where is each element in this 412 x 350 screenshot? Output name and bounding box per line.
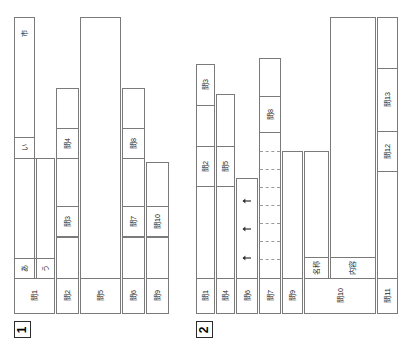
fig1-number-text: 1 <box>17 326 29 333</box>
fig1-leaf-i-box <box>14 137 35 159</box>
fig2-node-q5-box <box>216 146 235 187</box>
diagram-canvas: 問1 問2 問5 問6 問9 あ う 問3 問4 問7 問8 <box>0 0 412 350</box>
fig2-node-q11-box <box>377 278 398 314</box>
fig2-node-q2-stem <box>196 105 215 147</box>
fig2-number-badge: 2 <box>196 321 213 338</box>
fig2-leaf-naiyo-stem <box>330 17 376 258</box>
fig1-node-q5-stem <box>80 17 121 279</box>
fig2-dash-5 <box>260 223 280 224</box>
fig2-node-q10-box <box>304 278 376 314</box>
fig1-node-q1-box <box>14 278 55 314</box>
fig2-dash-2 <box>260 169 280 170</box>
fig2-leaf-meisho-box <box>304 257 329 279</box>
fig2-dash-1 <box>260 151 280 152</box>
fig1-node-q5-box <box>80 278 121 314</box>
fig2-node-q8-box <box>259 96 281 133</box>
fig2-leaf-naiyo-box <box>330 257 376 279</box>
fig2-node-q4-box <box>216 278 235 314</box>
fig1-node-q6-box <box>122 278 145 314</box>
fig2-node-q6-stem <box>236 178 258 279</box>
fig1-leaf-shi2-box <box>36 158 55 259</box>
fig1-leaf-shi1-box <box>14 158 35 259</box>
fig1-node-q9-box <box>146 278 169 314</box>
fig1-leaf-a-box <box>14 258 35 279</box>
fig1-leaf-shi3-box <box>14 17 35 138</box>
fig2-node-q2-box <box>196 146 215 187</box>
fig2-node-q11-stem <box>377 171 398 279</box>
fig1-node-q10-stem <box>146 162 169 207</box>
fig1-node-q8-stem <box>122 88 145 129</box>
fig1-node-q6-stem <box>122 237 145 279</box>
fig1-node-q4-stem <box>56 88 79 129</box>
fig2-node-q12-box <box>377 131 398 172</box>
fig2-node-q5-stem <box>216 94 235 147</box>
fig1-number-badge: 1 <box>14 321 31 338</box>
fig1-node-q7-box <box>122 206 145 237</box>
fig2-node-q8-stem <box>259 58 281 97</box>
fig1-node-q7-stem <box>122 158 145 207</box>
fig1-node-q9-stem <box>146 237 169 279</box>
fig2-node-q13-box <box>377 68 398 132</box>
fig2-dash-4 <box>260 205 280 206</box>
fig2-number-text: 2 <box>199 326 211 333</box>
fig1-node-q10-box <box>146 206 169 237</box>
fig2-node-q1-stem <box>196 186 215 279</box>
fig1-node-q2-stem <box>56 237 79 279</box>
fig2-node-q9-box <box>282 278 303 314</box>
fig1-node-q2-box <box>56 278 79 314</box>
fig1-node-q8-box <box>122 128 145 159</box>
fig2-dash-6 <box>260 241 280 242</box>
fig1-leaf-u-box <box>36 258 55 279</box>
fig2-node-q1-box <box>196 278 215 314</box>
fig1-node-q3-stem <box>56 158 79 207</box>
fig2-leaf-meisho-stem <box>304 151 329 258</box>
fig2-node-q3-box <box>196 64 215 106</box>
fig2-node-q13-stem <box>377 17 398 69</box>
fig2-dash-3 <box>260 187 280 188</box>
fig2-node-q6-box <box>236 278 258 314</box>
fig2-dash-7 <box>260 259 280 260</box>
fig2-node-q7-box <box>259 278 281 314</box>
fig2-node-q9-stem <box>282 151 303 279</box>
fig1-node-q4-box <box>56 128 79 159</box>
fig1-node-q3-box <box>56 206 79 237</box>
fig2-node-q4-stem <box>216 186 235 279</box>
